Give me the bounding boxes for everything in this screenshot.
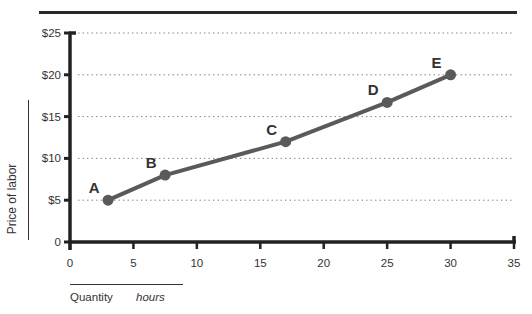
supply-line bbox=[108, 75, 451, 200]
data-point-b bbox=[160, 170, 171, 181]
x-axis-label-rule bbox=[70, 284, 183, 285]
y-axis-label: Price of labor bbox=[5, 139, 19, 259]
y-tick-label: $20 bbox=[42, 69, 61, 81]
point-label-d: D bbox=[368, 81, 379, 98]
data-point-a bbox=[103, 195, 114, 206]
x-tick-label: 35 bbox=[508, 257, 521, 269]
data-point-c bbox=[280, 136, 291, 147]
y-tick-label: $5 bbox=[48, 194, 61, 206]
x-axis-unit: hours bbox=[136, 291, 165, 303]
x-axis-label: Quantity bbox=[70, 291, 113, 303]
point-label-b: B bbox=[146, 154, 157, 171]
x-tick-label: 30 bbox=[444, 257, 457, 269]
point-label-a: A bbox=[89, 179, 100, 196]
y-tick-label: $10 bbox=[42, 152, 61, 164]
x-tick-label: 20 bbox=[317, 257, 330, 269]
x-tick-label: 10 bbox=[190, 257, 203, 269]
data-point-d bbox=[382, 97, 393, 108]
y-axis-label-rule bbox=[28, 100, 29, 240]
y-tick-label: $15 bbox=[42, 111, 61, 123]
point-label-e: E bbox=[432, 54, 442, 71]
data-point-e bbox=[445, 69, 456, 80]
y-tick-label: 0 bbox=[55, 236, 61, 248]
point-label-c: C bbox=[266, 121, 277, 138]
x-tick-label: 15 bbox=[254, 257, 267, 269]
x-tick-label: 25 bbox=[381, 257, 394, 269]
supply-chart: 0$5$10$15$20$2505101520253035ABCDE bbox=[0, 0, 532, 314]
x-tick-label: 0 bbox=[67, 257, 73, 269]
y-tick-label: $25 bbox=[42, 27, 61, 39]
x-tick-label: 5 bbox=[130, 257, 136, 269]
